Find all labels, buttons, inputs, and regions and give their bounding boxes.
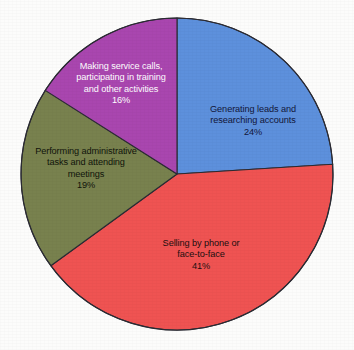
pie-slice-1[interactable] bbox=[177, 18, 333, 174]
pie-chart-canvas bbox=[0, 0, 354, 350]
pie-slices-group bbox=[21, 18, 333, 330]
pie-chart: Generating leads and researching account… bbox=[0, 0, 354, 350]
